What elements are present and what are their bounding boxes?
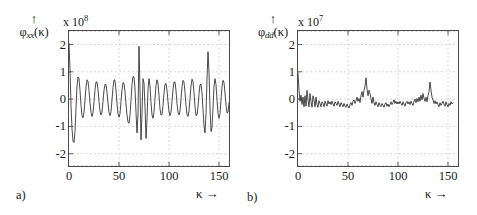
panel-b: ↑ φdd(κ) x 107 xyxy=(239,0,477,215)
x-axis-name-text-b: κ xyxy=(425,187,431,201)
plot-area-a: 2 1 0 -1 -2 0 50 100 150 xyxy=(68,30,230,167)
x-axis-name-b: κ → xyxy=(425,186,447,202)
y-tick-label-b-2: 0 xyxy=(289,93,295,106)
up-arrow-icon: ↑ xyxy=(2,14,66,25)
signal-curve-a xyxy=(69,43,229,142)
panel-a: ↑ φxx(κ) x 108 xyxy=(0,0,238,215)
plot-svg-a xyxy=(69,31,229,166)
axis-tickmarks-a xyxy=(69,31,219,166)
x-tick-label-b-3: 150 xyxy=(439,170,458,183)
x-axis-name-text-a: κ xyxy=(196,187,202,201)
x-tick-label-a-1: 50 xyxy=(113,170,126,183)
y-axis-label-subscript-a: xx xyxy=(27,30,34,40)
y-tick-label-a-4: -2 xyxy=(56,147,66,160)
figure-container: ↑ φxx(κ) x 108 xyxy=(0,0,477,215)
x-tick-label-a-3: 150 xyxy=(210,170,229,183)
y-axis-multiplier-text-a: x 10 xyxy=(63,15,84,29)
y-axis-label-subscript-b: dd xyxy=(265,30,273,40)
y-axis-label-a: φxx(κ) xyxy=(2,25,66,42)
subfigure-tag-b: b) xyxy=(247,190,257,205)
y-axis-label-group-b: ↑ φdd(κ) xyxy=(241,14,305,42)
y-tick-label-b-0: 2 xyxy=(289,38,295,51)
x-tick-label-b-1: 50 xyxy=(342,170,355,183)
y-axis-label-arg-a: (κ) xyxy=(34,25,49,39)
y-axis-multiplier-b: x 107 xyxy=(298,13,323,30)
y-tick-label-b-3: -1 xyxy=(285,120,295,133)
gridlines-a xyxy=(69,31,229,166)
right-arrow-icon-a: → xyxy=(205,186,218,201)
x-tick-label-a-2: 100 xyxy=(160,170,179,183)
plot-area-b: 2 1 0 -1 -2 0 50 100 150 xyxy=(297,30,459,167)
up-arrow-icon: ↑ xyxy=(241,14,305,25)
y-tick-label-a-2: 0 xyxy=(60,93,66,106)
y-tick-label-a-0: 2 xyxy=(60,38,66,51)
y-tick-label-b-4: -2 xyxy=(285,147,295,160)
y-axis-label-group-a: ↑ φxx(κ) xyxy=(2,14,66,42)
y-axis-label-arg-b: (κ) xyxy=(274,25,289,39)
y-axis-multiplier-exponent-a: 8 xyxy=(84,13,88,23)
y-axis-label-base-b: φ xyxy=(258,25,265,39)
signal-curve-b xyxy=(298,73,453,108)
x-tick-label-b-0: 0 xyxy=(295,170,301,183)
y-tick-label-a-1: 1 xyxy=(60,66,66,79)
y-axis-label-b: φdd(κ) xyxy=(241,25,305,42)
gridlines-b xyxy=(298,31,458,166)
x-tick-label-b-2: 100 xyxy=(389,170,408,183)
plot-svg-b xyxy=(298,31,458,166)
y-tick-label-b-1: 1 xyxy=(289,66,295,79)
y-axis-multiplier-a: x 108 xyxy=(63,13,88,30)
x-tick-label-a-0: 0 xyxy=(66,170,72,183)
y-axis-multiplier-exponent-b: 7 xyxy=(319,13,323,23)
y-tick-label-a-3: -1 xyxy=(56,120,66,133)
subfigure-tag-a: a) xyxy=(16,188,26,203)
y-axis-label-base-a: φ xyxy=(19,25,26,39)
right-arrow-icon-b: → xyxy=(434,186,447,201)
x-axis-name-a: κ → xyxy=(196,186,218,202)
y-axis-multiplier-text-b: x 10 xyxy=(298,15,319,29)
